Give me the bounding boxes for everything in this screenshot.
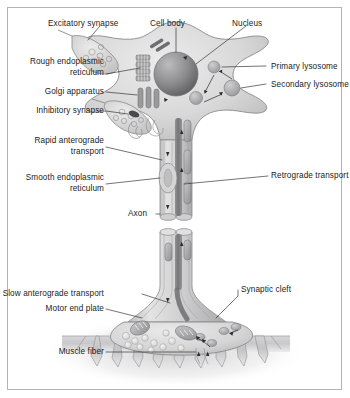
label-slow-anterograde-transport: Slow anterograde transport bbox=[0, 289, 104, 300]
label-smooth-er-line1: Smooth endoplasmic bbox=[0, 173, 104, 184]
label-secondary-lysosome: Secondary lysosome bbox=[271, 80, 349, 91]
nucleus-shape bbox=[154, 52, 198, 96]
label-nucleus: Nucleus bbox=[232, 19, 262, 30]
label-synaptic-cleft: Synaptic cleft bbox=[241, 285, 291, 296]
label-inhibitory-synapse: Inhibitory synapse bbox=[0, 106, 104, 117]
label-rapid-anterograde-line1: Rapid anterograde bbox=[0, 136, 104, 147]
label-retrograde-transport: Retrograde transport bbox=[271, 171, 349, 182]
label-motor-end-plate: Motor end plate bbox=[0, 304, 104, 315]
label-primary-lysosome: Primary lysosome bbox=[271, 62, 338, 73]
label-rough-er-line2: reticulum bbox=[0, 68, 104, 79]
label-cell-body: Cell body bbox=[150, 19, 185, 30]
neuron-diagram-figure: Excitatory synapse Cell body Nucleus Rou… bbox=[0, 0, 350, 398]
label-smooth-er-line2: reticulum bbox=[0, 184, 104, 195]
label-muscle-fiber: Muscle fiber bbox=[0, 347, 104, 358]
label-rapid-anterograde-line2: transport bbox=[0, 147, 104, 158]
label-excitatory-synapse: Excitatory synapse bbox=[48, 19, 119, 30]
axon-shape bbox=[128, 118, 226, 322]
label-axon: Axon bbox=[128, 209, 147, 220]
label-golgi-apparatus: Golgi apparatus bbox=[0, 87, 104, 98]
label-rough-er-line1: Rough endoplasmic bbox=[0, 57, 104, 68]
